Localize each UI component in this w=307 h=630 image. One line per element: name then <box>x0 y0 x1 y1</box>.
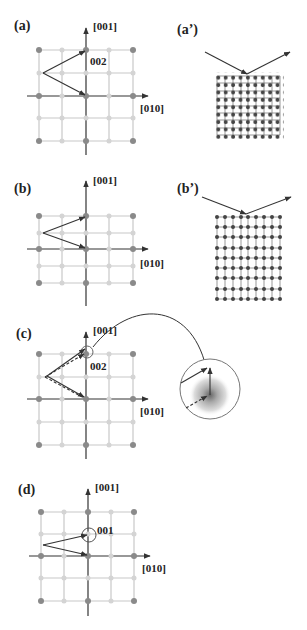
axis-010-label: [010] <box>140 102 164 114</box>
panel-b-prime: (b’) <box>177 181 291 301</box>
incident-reflected-beams <box>202 197 291 214</box>
panel-b: (b) [001] [010] <box>14 174 164 306</box>
panel-d-label: (d) <box>18 482 35 498</box>
panel-d: (d) [001] [010] 001 <box>18 481 166 616</box>
diffraction-figure: (a) [001] [010] 002 (a <box>0 0 307 630</box>
axis-001-label: [001] <box>93 20 117 32</box>
panel-a-label: (a) <box>14 18 31 34</box>
panel-c-label: (c) <box>16 326 32 342</box>
axis-001-label: [001] <box>93 174 117 186</box>
panel-c: (c) <box>16 314 240 459</box>
axis-001-label: [001] <box>95 481 119 493</box>
reflection-label: 002 <box>90 55 107 67</box>
reflection-label: 002 <box>90 360 107 372</box>
axis-010-label: [010] <box>140 405 164 417</box>
axis-001-label: [001] <box>93 324 117 336</box>
axis-010-label: [010] <box>142 562 166 574</box>
scattering-vectors <box>45 349 85 398</box>
zoom-callout-arrow <box>93 314 206 367</box>
scattering-vectors <box>43 535 87 555</box>
reflection-label: 001 <box>97 524 114 536</box>
axis-010-label: [010] <box>140 257 164 269</box>
panel-b-label: (b) <box>14 181 31 197</box>
incident-reflected-beams <box>205 52 290 74</box>
axes <box>27 181 148 306</box>
axes <box>27 332 148 459</box>
zoom-inset <box>180 359 240 419</box>
axes <box>27 28 148 155</box>
panel-a-prime-label: (a’) <box>177 22 198 38</box>
panel-b-prime-label: (b’) <box>177 181 199 197</box>
crystal-lattice <box>214 72 284 139</box>
crystal-lattice <box>215 215 282 301</box>
panel-a: (a) [001] [010] 002 <box>14 18 164 155</box>
axes <box>29 489 150 616</box>
panel-a-prime: (a’) <box>177 22 290 139</box>
